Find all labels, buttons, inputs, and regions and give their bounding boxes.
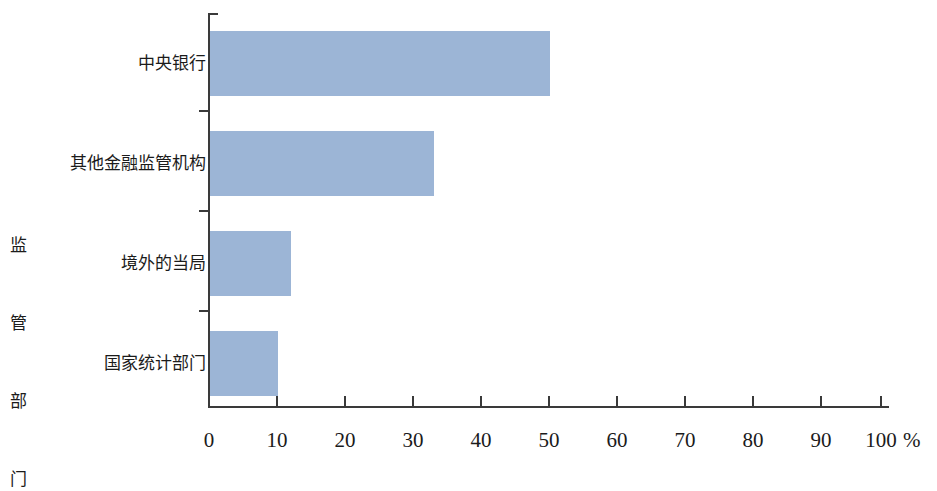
x-axis-label-80: 80: [723, 428, 783, 452]
y-axis-title-char-3: 部: [4, 389, 32, 415]
x-axis-label-100: 100: [851, 428, 911, 452]
x-axis-label-60: 60: [587, 428, 647, 452]
x-axis-tick-10: [276, 396, 278, 407]
x-axis-label-0: 0: [179, 428, 239, 452]
x-axis-tick-30: [412, 396, 414, 407]
bar-national-statistics: [210, 331, 278, 396]
x-axis-tick-50: [548, 396, 550, 407]
y-axis-title-char-4: 门: [4, 467, 32, 491]
x-axis-tick-20: [344, 396, 346, 407]
x-axis-unit-label: %: [903, 428, 921, 452]
y-axis-top-cap: [209, 13, 218, 15]
bar-central-bank: [210, 31, 550, 96]
x-axis-tick-80: [752, 396, 754, 407]
x-axis-tick-70: [684, 396, 686, 407]
y-axis-title: 监 管 部 门: [4, 181, 32, 491]
x-axis-tick-60: [616, 396, 618, 407]
y-axis-label-category-4: 国家统计部门: [0, 354, 206, 374]
x-axis-label-30: 30: [383, 428, 443, 452]
y-axis-tick-1: [199, 110, 209, 112]
x-axis-tick-40: [480, 396, 482, 407]
x-axis-tick-0: [208, 396, 210, 407]
x-axis-label-40: 40: [451, 428, 511, 452]
y-axis-label-category-1: 中央银行: [0, 54, 206, 74]
y-axis-tick-2: [199, 210, 209, 212]
x-axis-label-10: 10: [247, 428, 307, 452]
x-axis-tick-90: [820, 396, 822, 407]
bar-overseas-authorities: [210, 231, 291, 296]
y-axis-tick-3: [199, 310, 209, 312]
x-axis-label-50: 50: [519, 428, 579, 452]
y-axis-title-char-2: 管: [4, 311, 32, 337]
bar-other-financial-regulators: [210, 131, 434, 196]
x-axis-tick-100: [880, 396, 882, 407]
y-axis-label-category-3: 境外的当局: [0, 254, 206, 274]
y-axis-label-category-2: 其他金融监管机构: [0, 154, 206, 174]
x-axis-label-70: 70: [655, 428, 715, 452]
x-axis-label-90: 90: [791, 428, 851, 452]
x-axis-label-20: 20: [315, 428, 375, 452]
